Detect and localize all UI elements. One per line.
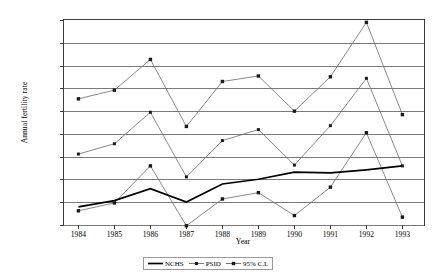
ci-lower-marker <box>329 185 332 188</box>
gridline <box>64 225 424 226</box>
legend-item: 95% C.I. <box>226 259 268 268</box>
series-group <box>64 20 424 225</box>
ci-upper-marker <box>365 21 368 24</box>
legend-item-label: 95% C.I. <box>243 260 268 268</box>
psid-marker <box>149 111 152 114</box>
ci-upper-marker <box>329 75 332 78</box>
ci-lower-line <box>78 133 402 226</box>
ci-upper-marker <box>257 74 260 77</box>
x-axis-title: Year <box>63 237 423 246</box>
legend-item: NCHS <box>148 259 184 268</box>
x-tick-mark <box>114 225 115 229</box>
psid-marker <box>329 124 332 127</box>
psid-marker <box>401 164 404 167</box>
chart-figure: Annual fertility rate 0.200.190.170.160.… <box>0 0 432 278</box>
x-tick-mark <box>294 225 295 229</box>
y-axis-title: Annual fertility rate <box>20 48 29 178</box>
legend-item-label: PSID <box>206 260 221 268</box>
psid-marker <box>257 128 260 131</box>
psid-marker <box>77 153 80 156</box>
x-tick-mark <box>150 225 151 229</box>
legend-item: PSID <box>189 259 221 268</box>
ci-lower-marker <box>185 224 188 227</box>
ci-lower-marker <box>77 209 80 212</box>
x-tick-mark <box>258 225 259 229</box>
psid-line <box>78 78 402 177</box>
ci-upper-marker <box>293 109 296 112</box>
ci-upper-marker <box>185 125 188 128</box>
ci-upper-marker <box>113 88 116 91</box>
ci-upper-marker <box>149 58 152 61</box>
ci-upper-marker <box>401 113 404 116</box>
x-tick-mark <box>330 225 331 229</box>
ci-lower-marker <box>113 201 116 204</box>
ci-lower-marker <box>293 214 296 217</box>
thick-line-key-icon <box>148 259 163 268</box>
x-tick-mark <box>402 225 403 229</box>
psid-marker <box>293 164 296 167</box>
legend-item-label: NCHS <box>165 260 184 268</box>
ci-upper-marker <box>221 80 224 83</box>
ci-lower-marker <box>401 215 404 218</box>
y-tick-mark <box>60 225 64 226</box>
psid-marker <box>185 175 188 178</box>
ci-lower-marker <box>149 164 152 167</box>
psid-marker <box>113 142 116 145</box>
ci-lower-marker <box>365 131 368 134</box>
line-small-square-key-icon <box>189 259 204 268</box>
plot-area: 0.200.190.170.160.140.130.110.100.080.07… <box>63 19 425 226</box>
line-square-key-icon <box>226 259 241 268</box>
psid-marker <box>221 139 224 142</box>
ci-upper-marker <box>77 97 80 100</box>
nchs-line <box>78 166 402 207</box>
chart-legend: NCHSPSID95% C.I. <box>143 257 273 270</box>
ci-upper-line <box>78 22 402 126</box>
x-tick-mark <box>366 225 367 229</box>
ci-lower-marker <box>257 191 260 194</box>
psid-marker <box>365 77 368 80</box>
x-tick-mark <box>222 225 223 229</box>
x-tick-mark <box>78 225 79 229</box>
ci-lower-marker <box>221 197 224 200</box>
